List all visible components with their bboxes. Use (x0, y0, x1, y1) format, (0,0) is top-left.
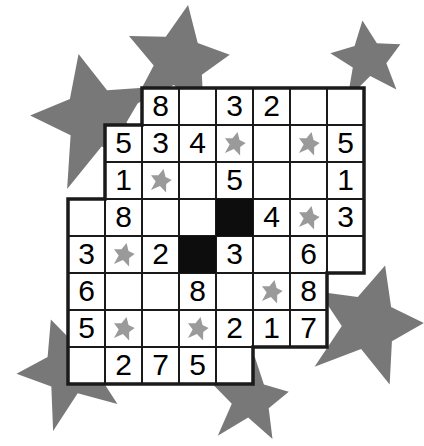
star-icon (296, 131, 322, 157)
cell-digit: 5 (226, 165, 243, 195)
grid-cell[interactable]: 2 (142, 236, 179, 273)
cell-digit: 3 (226, 239, 243, 269)
grid-cell[interactable] (142, 199, 179, 236)
cell-digit: 6 (300, 239, 317, 269)
grid-cell[interactable]: 4 (179, 125, 216, 162)
grid-cell[interactable] (216, 273, 253, 310)
grid-cell[interactable]: 7 (290, 310, 327, 347)
cell-digit: 8 (300, 276, 317, 306)
grid-cell[interactable]: 5 (216, 162, 253, 199)
grid-cell[interactable]: 3 (216, 236, 253, 273)
grid-cell[interactable] (327, 88, 364, 125)
star-icon (185, 316, 211, 342)
grid-cell[interactable] (179, 199, 216, 236)
grid-cell[interactable] (290, 162, 327, 199)
grid-cell[interactable] (179, 88, 216, 125)
cell-digit: 8 (189, 276, 206, 306)
cell-digit: 5 (78, 313, 95, 343)
grid-cell[interactable]: 2 (216, 310, 253, 347)
cell-digit: 8 (115, 202, 132, 232)
grid-cell[interactable] (290, 88, 327, 125)
cell-digit: 3 (152, 128, 169, 158)
cell-digit: 5 (337, 128, 354, 158)
cell-digit: 2 (152, 239, 169, 269)
cell-digit: 1 (337, 165, 354, 195)
cell-digit: 2 (226, 313, 243, 343)
blocked-cell (179, 236, 216, 273)
cell-digit: 1 (263, 313, 280, 343)
cell-digit: 8 (152, 91, 169, 121)
grid-cell[interactable]: 1 (105, 162, 142, 199)
grid-cell[interactable] (290, 199, 327, 236)
cell-digit: 3 (78, 239, 95, 269)
cell-digit: 6 (78, 276, 95, 306)
grid-cell[interactable]: 7 (142, 347, 179, 384)
cell-digit: 3 (337, 202, 354, 232)
grid-cell[interactable] (105, 273, 142, 310)
grid-cell[interactable] (105, 236, 142, 273)
cell-digit: 3 (226, 91, 243, 121)
star-icon (111, 242, 137, 268)
grid-cell[interactable] (105, 310, 142, 347)
cell-digit: 5 (189, 350, 206, 380)
star-icon (148, 168, 174, 194)
grid-cell[interactable] (290, 125, 327, 162)
star-icon (259, 279, 285, 305)
blocked-cell (216, 199, 253, 236)
grid-cell[interactable]: 5 (179, 347, 216, 384)
grid-cell[interactable]: 8 (179, 273, 216, 310)
cell-digit: 7 (300, 313, 317, 343)
grid-cell[interactable]: 3 (216, 88, 253, 125)
grid-cell[interactable]: 3 (68, 236, 105, 273)
grid-cell[interactable] (216, 347, 253, 384)
grid-cell[interactable] (253, 125, 290, 162)
grid-cell[interactable]: 3 (142, 125, 179, 162)
star-icon (296, 205, 322, 231)
grid-cell[interactable] (68, 347, 105, 384)
grid-cell[interactable]: 5 (105, 125, 142, 162)
grid-cell[interactable] (179, 310, 216, 347)
cell-digit: 7 (152, 350, 169, 380)
grid-cell[interactable]: 6 (68, 273, 105, 310)
star-icon (111, 316, 137, 342)
grid-cell[interactable]: 5 (68, 310, 105, 347)
grid-cell[interactable] (179, 162, 216, 199)
cell-digit: 2 (115, 350, 132, 380)
grid-cell[interactable] (142, 162, 179, 199)
grid-cell[interactable]: 5 (327, 125, 364, 162)
star-icon (222, 131, 248, 157)
cell-digit: 4 (189, 128, 206, 158)
grid-cell[interactable]: 2 (105, 347, 142, 384)
grid-cell[interactable]: 8 (105, 199, 142, 236)
grid-cell[interactable] (142, 273, 179, 310)
cell-digit: 4 (263, 202, 280, 232)
grid-cell[interactable]: 4 (253, 199, 290, 236)
grid-cell[interactable]: 3 (327, 199, 364, 236)
grid-cell[interactable] (68, 199, 105, 236)
grid-cell[interactable]: 8 (290, 273, 327, 310)
grid-cell[interactable] (253, 236, 290, 273)
sudoku-grid[interactable]: 832534515184332366885217275 (0, 0, 424, 446)
grid-cell[interactable] (142, 310, 179, 347)
grid-cell[interactable]: 8 (142, 88, 179, 125)
grid-cell[interactable] (253, 273, 290, 310)
grid-cell[interactable] (327, 236, 364, 273)
cell-digit: 5 (115, 128, 132, 158)
grid-cell[interactable]: 1 (327, 162, 364, 199)
grid-cell[interactable]: 1 (253, 310, 290, 347)
cell-digit: 1 (115, 165, 132, 195)
grid-cell[interactable]: 2 (253, 88, 290, 125)
sudoku-puzzle-image: 832534515184332366885217275 (0, 0, 424, 446)
grid-cell[interactable] (216, 125, 253, 162)
cell-digit: 2 (263, 91, 280, 121)
grid-cell[interactable]: 6 (290, 236, 327, 273)
grid-cell[interactable] (253, 162, 290, 199)
